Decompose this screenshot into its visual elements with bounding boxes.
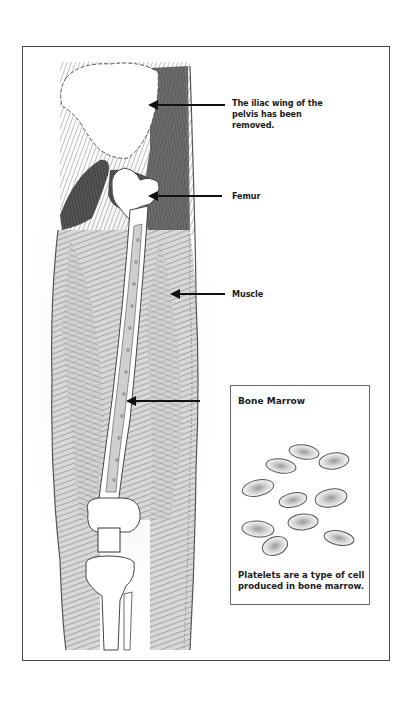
iliac-wing-label: The iliac wing of the pelvis has been re… — [232, 98, 342, 131]
muscle-label: Muscle — [232, 289, 263, 300]
platelet-cells-illustration — [231, 386, 371, 566]
inset-caption: Platelets are a type of cell produced in… — [238, 570, 366, 592]
femur-label: Femur — [232, 191, 260, 202]
thigh-anatomy-illustration — [0, 0, 412, 712]
bone-marrow-inset: Bone Marrow Platelets are a type of cell… — [230, 385, 370, 605]
